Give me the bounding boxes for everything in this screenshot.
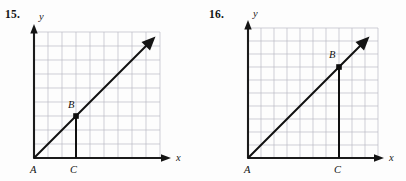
ray-ab-15 <box>34 37 156 159</box>
x-axis-label-16: x <box>388 152 394 163</box>
problem-16-figure: y x A C B <box>203 0 406 181</box>
y-axis-arrow-icon <box>30 24 37 34</box>
y-axis-15 <box>30 24 37 158</box>
ray-ab-16 <box>248 37 370 159</box>
x-axis-arrow-icon <box>374 154 384 161</box>
problem-15-figure: y x A C B <box>0 0 203 181</box>
point-b-dot-15 <box>73 113 79 119</box>
point-b-label-16: B <box>329 49 336 60</box>
point-c-label-16: C <box>334 164 342 175</box>
x-axis-16 <box>248 154 384 161</box>
point-a-label-15: A <box>29 164 37 175</box>
point-a-label-16: A <box>243 164 251 175</box>
y-axis-label-16: y <box>252 8 258 19</box>
point-b-dot-16 <box>336 64 342 70</box>
x-axis-label-15: x <box>175 152 181 163</box>
x-axis-arrow-icon <box>161 154 171 161</box>
point-c-label-15: C <box>70 164 78 175</box>
worksheet-page: 15. <box>0 0 406 181</box>
problem-16: 16. <box>203 0 406 181</box>
y-axis-label-15: y <box>38 11 44 22</box>
problem-15: 15. <box>0 0 203 181</box>
point-b-label-15: B <box>68 99 75 110</box>
y-axis-arrow-icon <box>244 20 251 30</box>
x-axis-15 <box>34 154 171 161</box>
